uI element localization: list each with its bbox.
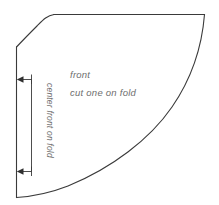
center-front-dimension-line [17, 75, 32, 177]
side-seam-hem-curve [17, 15, 205, 198]
pattern-outline-svg: front cut one on fold center front on fo… [0, 0, 219, 205]
neckline-curve [17, 15, 55, 48]
cutting-instruction-label: cut one on fold [70, 87, 137, 98]
pattern-piece-outline [17, 15, 205, 198]
arrow-left-icon-bottom [17, 168, 24, 174]
arrow-left-icon-top [17, 76, 24, 82]
sewing-pattern-diagram: front cut one on fold center front on fo… [0, 0, 219, 205]
center-front-dimension-label: center front on fold [45, 83, 55, 158]
piece-name-label: front [70, 69, 90, 80]
